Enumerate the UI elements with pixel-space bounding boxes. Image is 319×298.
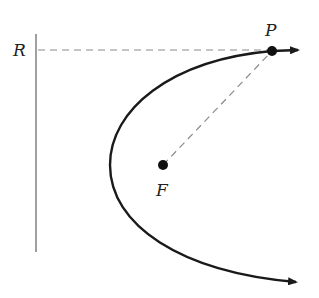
label-p: P [264, 20, 277, 40]
parabola-diagram: R P F [0, 0, 319, 298]
parabola-upper-branch [110, 50, 298, 165]
point-p [267, 46, 277, 56]
focus-point [158, 160, 168, 170]
parabola-lower-branch [110, 165, 296, 282]
label-f: F [155, 180, 169, 200]
label-r: R [12, 40, 26, 60]
dashed-line-f-to-p [163, 51, 272, 165]
